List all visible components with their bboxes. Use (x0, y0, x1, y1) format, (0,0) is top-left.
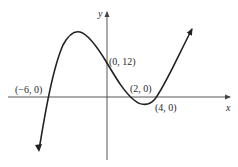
point-label-neg6: (−6, 0) (15, 84, 42, 96)
x-axis-label: x (225, 102, 231, 113)
function-graph: x y (−6, 0) (0, 12) (2, 0) (4, 0) (0, 0, 238, 167)
y-axis-label: y (97, 8, 103, 19)
graph-svg: x y (−6, 0) (0, 12) (2, 0) (4, 0) (0, 0, 238, 167)
point-label-four: (4, 0) (155, 102, 177, 114)
cubic-curve (39, 29, 192, 150)
curve-arrow-down (35, 144, 42, 152)
point-label-two: (2, 0) (130, 83, 152, 95)
point-label-yint: (0, 12) (109, 56, 136, 68)
